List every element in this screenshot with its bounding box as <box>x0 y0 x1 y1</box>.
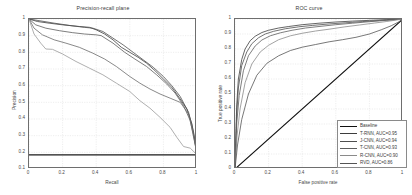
legend-line-swatch <box>340 141 357 142</box>
ytick-label: 1 <box>11 15 25 20</box>
roc-curve-xlabel: False positive rate <box>234 180 402 185</box>
xtick-label: 1 <box>188 170 204 175</box>
roc-curve-ylabel: True positive rate <box>218 85 223 122</box>
ytick-label: 1 <box>217 15 231 20</box>
legend-line-swatch <box>340 133 357 134</box>
legend-line-swatch <box>340 148 357 149</box>
legend-label: Baseline <box>360 124 377 129</box>
legend-label: T-CNN, AUC=0.93 <box>360 146 397 151</box>
legend-item: T-CNN, AUC=0.93 <box>340 145 404 152</box>
ytick-label: 0.3 <box>11 132 25 137</box>
precision-recall-plot-area <box>28 18 196 168</box>
legend-line-swatch <box>340 155 357 156</box>
precision-recall-plot-svg <box>29 19 195 167</box>
legend-item: R-CNN, AUC=0.90 <box>340 152 404 159</box>
figure-canvas: Precision-recall plane 0.10.20.30.40.50.… <box>0 0 412 195</box>
precision-recall-ylabel: Precision <box>12 90 17 110</box>
roc-curve-panel: ROC curve 00.10.20.30.40.50.60.70.80.91 … <box>206 0 412 195</box>
xtick-label: 0 <box>226 170 242 175</box>
legend-item: J-CNN, AUC=0.94 <box>340 138 404 145</box>
legend-item: Baseline <box>340 123 404 130</box>
roc-curve-legend: BaselineT-RNN, AUC=0.95J-CNN, AUC=0.94T-… <box>337 120 407 168</box>
ytick-label: 0.9 <box>217 30 231 35</box>
ytick-label: 0.8 <box>11 49 25 54</box>
roc-curve-title: ROC curve <box>206 5 412 11</box>
xtick-label: 0.2 <box>54 170 70 175</box>
xtick-label: 0.8 <box>154 170 170 175</box>
ytick-label: 0.7 <box>217 60 231 65</box>
ytick-label: 0.1 <box>217 150 231 155</box>
precision-recall-title: Precision-recall plane <box>0 5 206 11</box>
xtick-label: 0.8 <box>360 170 376 175</box>
ytick-label: 0.9 <box>11 32 25 37</box>
xtick-label: 0.2 <box>260 170 276 175</box>
legend-item: T-RNN, AUC=0.95 <box>340 130 404 137</box>
precision-recall-panel: Precision-recall plane 0.10.20.30.40.50.… <box>0 0 206 195</box>
precision-recall-svg <box>29 19 195 167</box>
legend-label: J-CNN, AUC=0.94 <box>360 139 397 144</box>
legend-label: RVD, AUC=0.86 <box>360 161 393 166</box>
xtick-label: 0 <box>20 170 36 175</box>
ytick-label: 0.6 <box>11 82 25 87</box>
legend-line-swatch <box>340 126 357 127</box>
ytick-label: 0.4 <box>11 115 25 120</box>
legend-line-swatch <box>340 163 357 164</box>
xtick-label: 0.4 <box>293 170 309 175</box>
xtick-label: 0.4 <box>87 170 103 175</box>
ytick-label: 0.6 <box>217 75 231 80</box>
xtick-label: 0.6 <box>327 170 343 175</box>
xtick-label: 1 <box>394 170 410 175</box>
legend-item: RVD, AUC=0.86 <box>340 159 404 166</box>
xtick-label: 0.6 <box>121 170 137 175</box>
precision-recall-xlabel: Recall <box>28 180 196 185</box>
ytick-label: 0.8 <box>217 45 231 50</box>
ytick-label: 0.2 <box>11 149 25 154</box>
legend-label: R-CNN, AUC=0.90 <box>360 154 398 159</box>
ytick-label: 0.2 <box>217 135 231 140</box>
legend-label: T-RNN, AUC=0.95 <box>360 132 397 137</box>
ytick-label: 0.7 <box>11 65 25 70</box>
